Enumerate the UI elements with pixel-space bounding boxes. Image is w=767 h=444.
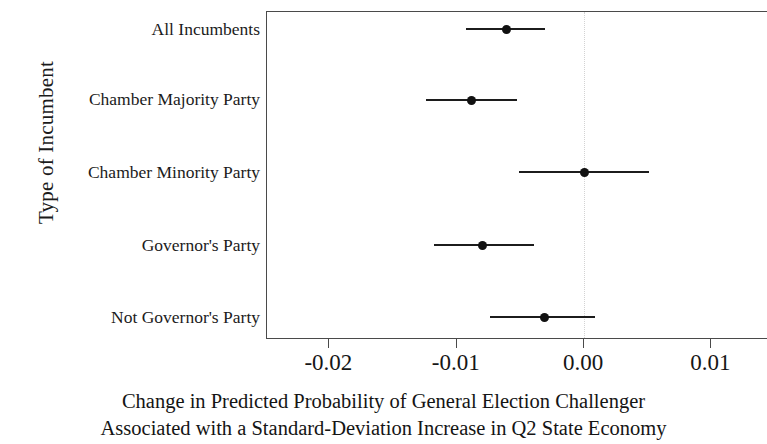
x-axis-tick-labels: -0.02 -0.01 0.00 0.01 <box>266 350 767 380</box>
x-tick-label: 0.00 <box>563 350 603 376</box>
x-tick-label: -0.02 <box>304 350 352 376</box>
x-axis-title-line-2: Associated with a Standard-Deviation Inc… <box>0 415 767 442</box>
x-tick-mark <box>456 339 457 348</box>
y-tick-label-not-governors-party: Not Governor's Party <box>30 309 260 327</box>
point-estimate-marker <box>580 168 589 177</box>
x-tick-label: -0.01 <box>432 350 480 376</box>
x-tick-mark <box>583 339 584 348</box>
x-axis-title-line-1: Change in Predicted Probability of Gener… <box>0 388 767 415</box>
x-tick-mark <box>710 339 711 348</box>
point-estimate-marker <box>478 241 487 250</box>
x-axis-title: Change in Predicted Probability of Gener… <box>0 388 767 443</box>
x-tick-mark <box>328 339 329 348</box>
x-tick-label: 0.01 <box>690 350 730 376</box>
point-estimate-marker <box>502 25 511 34</box>
y-tick-label-all-incumbents: All Incumbents <box>30 21 260 39</box>
coefficient-plot-figure: Type of Incumbent All Incumbents Chamber… <box>0 0 767 444</box>
y-tick-label-chamber-majority-party: Chamber Majority Party <box>30 91 260 109</box>
y-tick-label-governors-party: Governor's Party <box>30 237 260 255</box>
y-axis-tick-labels: All Incumbents Chamber Majority Party Ch… <box>22 0 260 340</box>
point-estimate-marker <box>540 313 549 322</box>
point-estimate-marker <box>467 96 476 105</box>
y-tick-label-chamber-minority-party: Chamber Minority Party <box>30 164 260 182</box>
plot-panel <box>266 11 767 339</box>
x-axis-ticks <box>266 339 767 349</box>
